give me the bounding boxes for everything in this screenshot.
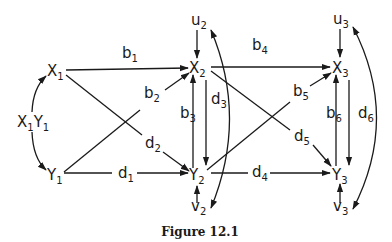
label-d2: d2: [145, 134, 161, 154]
label-b1: b1: [122, 44, 138, 64]
edge-x1y1-to-y1: [32, 132, 46, 170]
node-v3: v3: [333, 197, 348, 217]
label-d5: d5: [294, 127, 310, 147]
edge-x1y1-to-x1: [32, 76, 46, 112]
edge-d5-lower: [313, 145, 331, 166]
edge-u2-v2-correlation: [211, 30, 230, 208]
label-b4: b4: [252, 36, 268, 56]
label-d3: d3: [211, 90, 227, 110]
node-y1: Y1: [46, 166, 63, 186]
edge-b2-lower: [64, 110, 140, 172]
edge-b2-upper: [165, 73, 189, 90]
node-x1y1: X1Y1: [17, 113, 49, 133]
node-x3: X3: [332, 59, 349, 79]
label-d4: d4: [252, 163, 268, 183]
node-x2: X2: [189, 59, 206, 79]
node-x1: X1: [47, 62, 64, 82]
node-y3: Y3: [331, 166, 348, 186]
edge-b5-lower: [207, 102, 290, 170]
node-y2: Y2: [188, 166, 205, 186]
edge-b5-upper: [310, 73, 331, 86]
figure-caption: Figure 12.1: [161, 225, 239, 239]
label-b2: b2: [144, 84, 160, 104]
label-b6: b6: [326, 104, 342, 124]
label-d6: d6: [358, 104, 374, 124]
path-diagram: X1 Y1 X1Y1 X2 Y2 u2 v2 X3 Y3 u3 v3 b1 b2…: [0, 0, 392, 242]
node-u3: u3: [333, 10, 349, 30]
edge-d2-upper: [66, 75, 142, 135]
edge-d2-lower: [163, 152, 189, 171]
edge-b1: [66, 68, 188, 70]
label-d1: d1: [118, 164, 134, 184]
node-v2: v2: [191, 197, 206, 217]
label-b5: b5: [293, 82, 309, 102]
node-u2: u2: [191, 11, 207, 31]
